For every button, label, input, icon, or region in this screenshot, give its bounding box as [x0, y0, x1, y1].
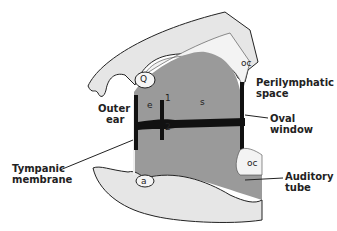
ossicle-chain [134, 95, 138, 150]
label-1: 1 [165, 93, 171, 104]
middle-ear-diagram: Outerear Tympanicmembrane Perilymphatics… [0, 0, 337, 231]
label-oc-top: oc [241, 58, 251, 69]
label-perilymphatic-space: Perilymphaticspace [256, 77, 334, 99]
label-a: a [141, 176, 147, 187]
label-oval-window: Oval window [270, 113, 337, 135]
label-e: e [147, 100, 153, 111]
label-tympanic-membrane: Tympanicmembrane [12, 163, 72, 185]
label-2: 2 [165, 122, 171, 133]
label-q: Q [140, 74, 147, 85]
label-s: s [200, 97, 205, 108]
label-auditory-tube: Auditorytube [285, 171, 334, 193]
label-outer-ear: Outerear [98, 103, 130, 125]
label-oc-bottom: oc [247, 158, 257, 169]
